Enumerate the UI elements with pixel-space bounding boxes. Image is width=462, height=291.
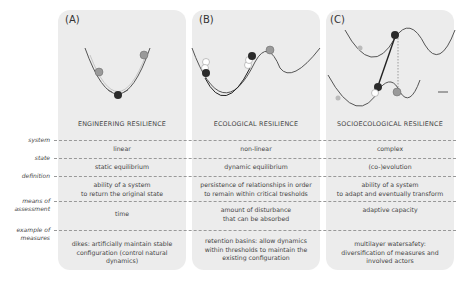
row-label-state: state — [35, 154, 50, 162]
row-label-system: system — [28, 136, 50, 144]
cell-b-means: amount of disturbance that can be absorb… — [192, 206, 320, 223]
cell-a-means: time — [58, 210, 186, 219]
divider-state — [54, 158, 456, 159]
cell-c-example: multilayer watersafety: diversification … — [326, 240, 454, 266]
cell-b-system: non-linear — [192, 145, 320, 154]
cell-c-definition: ability of a system to adapt and eventua… — [326, 181, 454, 198]
cell-c-means: adaptive capacity — [326, 206, 454, 215]
divider-system — [54, 140, 456, 141]
cell-a-state: static equilibrium — [58, 163, 186, 172]
cell-a-definition: ability of a system to return the origin… — [58, 181, 186, 198]
cell-b-definition: persistence of relationships in order to… — [192, 181, 320, 198]
cell-b-state: dynamic equilibrium — [192, 163, 320, 172]
cell-a-example: dikes: artificially maintain stable conf… — [58, 240, 186, 266]
cell-b-example: retention basins: allow dynamics within … — [192, 237, 320, 263]
cell-c-system: complex — [326, 145, 454, 154]
row-label-definition: definition — [22, 172, 50, 180]
divider-definition — [54, 176, 456, 177]
panel-title-socioecological: SOCIOECOLOGICAL RESILIENCE — [326, 120, 454, 128]
panel-title-ecological: ECOLOGICAL RESILIENCE — [192, 120, 320, 128]
row-label-means: means of assessment — [14, 197, 50, 213]
panel-title-engineering: ENGINEERING RESILIENCE — [58, 120, 186, 128]
divider-means — [54, 201, 456, 202]
divider-example — [54, 230, 456, 231]
cell-a-system: linear — [58, 145, 186, 154]
row-label-example: example of measures — [16, 226, 50, 242]
cell-c-state: (co-)evolution — [326, 163, 454, 172]
